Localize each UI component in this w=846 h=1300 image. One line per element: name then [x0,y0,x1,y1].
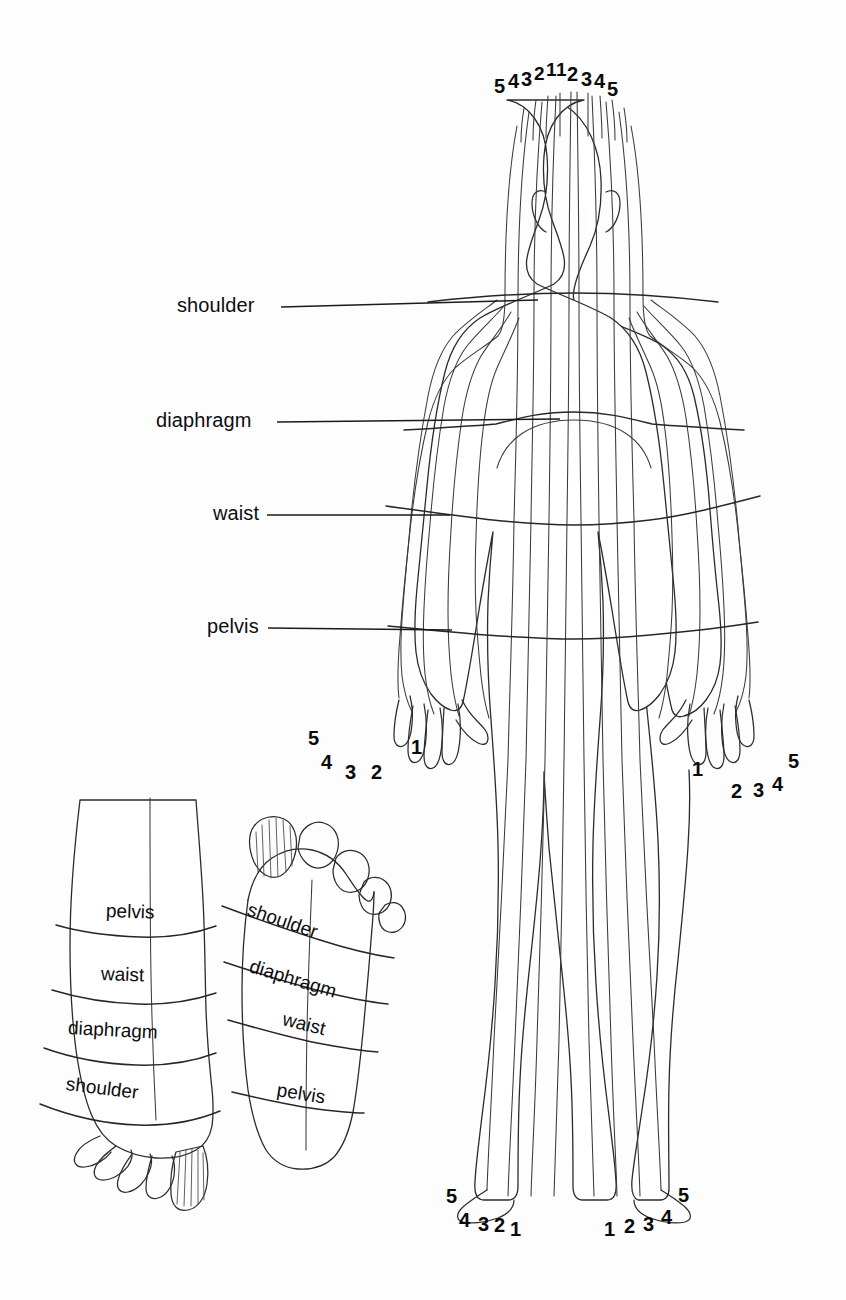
foot-dorsal-label-waist: waist [101,963,145,986]
body-label-pelvis: pelvis [207,615,259,638]
body-left-foot-number-5: 5 [446,1185,457,1208]
left-hand [394,696,488,769]
head-number-right-4: 4 [594,70,605,93]
body-label-waist: waist [213,502,259,525]
right-hand-number-1: 1 [692,758,703,781]
body-label-shoulder: shoulder [177,294,255,317]
leader-shoulder [281,300,538,307]
head-number-left-3: 3 [521,68,532,91]
body-left-foot-number-2: 2 [494,1214,505,1237]
foot-dorsal-drawing [40,798,220,1210]
head-number-right-3: 3 [581,68,592,91]
foot-dorsal-label-pelvis: pelvis [106,900,155,924]
head-number-left-4: 4 [508,70,519,93]
body-right-foot-number-4: 4 [661,1206,672,1229]
head-number-right-1: 1 [556,59,567,81]
left-hand-number-4: 4 [321,751,332,774]
body-left-foot-number-3: 3 [478,1213,489,1236]
left-hand-number-1: 1 [411,736,422,759]
body-right-foot-number-3: 3 [643,1213,654,1236]
head-number-right-5: 5 [607,78,618,101]
right-hand-number-3: 3 [753,779,764,802]
body-label-diaphragm: diaphragm [156,409,251,432]
right-hand-number-4: 4 [772,773,783,796]
left-hand-number-3: 3 [345,761,356,784]
body-right-foot-number-1: 1 [604,1218,615,1241]
head-number-left-2: 2 [534,63,545,85]
body-left-foot-number-1: 1 [510,1218,521,1241]
diagram-artwork [0,0,846,1300]
left-hand-number-5: 5 [308,727,319,750]
head-number-right-2: 2 [567,63,578,86]
body-right-foot-number-5: 5 [678,1184,689,1207]
right-hand-number-2: 2 [731,780,742,803]
head-number-left-5: 5 [494,75,505,98]
reflexology-diagram-page: shoulder diaphragm waist pelvis 5 4 3 2 … [0,0,846,1300]
left-hand-number-2: 2 [371,761,382,784]
head-number-left-1: 1 [546,59,557,81]
body-left-foot-number-4: 4 [459,1209,470,1232]
right-hand-number-5: 5 [788,750,799,773]
body-right-foot-number-2: 2 [624,1215,635,1238]
foot-dorsal-label-diaphragm: diaphragm [67,1017,158,1044]
